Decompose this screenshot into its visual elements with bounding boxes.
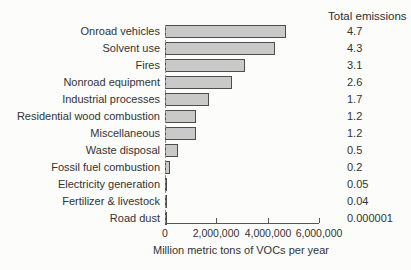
bar (165, 25, 286, 38)
voc-emissions-bar-chart: Total emissions Onroad vehicles4.7Solven… (0, 0, 411, 270)
x-tick-mark (319, 218, 320, 223)
total-emission-value: 3.1 (347, 59, 409, 72)
category-label: Fertilizer & livestock (0, 195, 160, 208)
x-axis-label: Million metric tons of VOCs per year (91, 244, 391, 256)
total-emission-value: 0.2 (347, 161, 409, 174)
bar (165, 76, 232, 89)
category-label: Fires (0, 59, 160, 72)
bar (165, 110, 196, 123)
total-emissions-column-header: Total emissions (328, 10, 408, 22)
total-emission-value: 0.05 (347, 178, 409, 191)
x-tick-mark (216, 218, 217, 223)
total-emission-value: 4.7 (347, 25, 409, 38)
total-emission-value: 2.6 (347, 76, 409, 89)
bar (165, 93, 209, 106)
category-label: Nonroad equipment (0, 76, 160, 89)
x-axis-line (165, 223, 319, 224)
category-label: Road dust (0, 212, 160, 225)
total-emission-value: 1.2 (347, 110, 409, 123)
category-label: Miscellaneous (0, 127, 160, 140)
category-label: Industrial processes (0, 93, 160, 106)
bar (165, 59, 245, 72)
total-emission-value: 0.5 (347, 144, 409, 157)
category-label: Solvent use (0, 42, 160, 55)
total-emission-value: 1.7 (347, 93, 409, 106)
category-label: Electricity generation (0, 178, 160, 191)
category-label: Fossil fuel combustion (0, 161, 160, 174)
x-tick-mark (268, 218, 269, 223)
bar (165, 144, 178, 157)
total-emission-value: 4.3 (347, 42, 409, 55)
category-label: Residential wood combustion (0, 110, 160, 123)
x-tick-label: 6,000,000 (284, 227, 354, 239)
category-label: Waste disposal (0, 144, 160, 157)
total-emission-value: 0.04 (347, 195, 409, 208)
y-axis-baseline (165, 25, 166, 223)
total-emission-value: 1.2 (347, 127, 409, 140)
bar (165, 127, 196, 140)
total-emission-value: 0.000001 (347, 212, 409, 225)
bar (165, 42, 275, 55)
category-label: Onroad vehicles (0, 25, 160, 38)
